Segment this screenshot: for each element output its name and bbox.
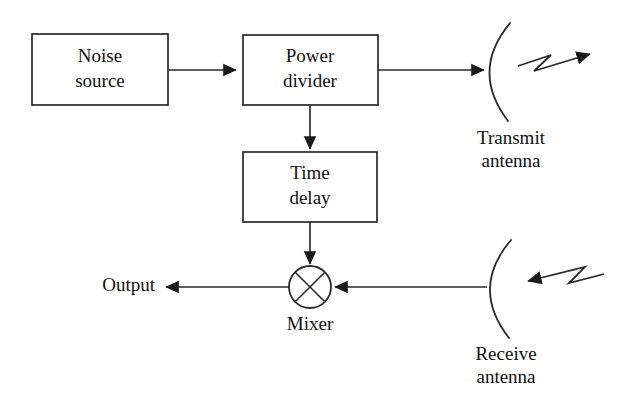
time-delay-label-line1: Time [290,162,329,183]
noise-source-label-line1: Noise [78,45,122,66]
power-divider-label-line1: Power [286,45,335,66]
output-label: Output [102,274,156,295]
receive-antenna[interactable]: Receive antenna [475,240,536,387]
block-diagram-canvas: Noise source Power divider Transmit ante… [0,0,625,404]
diagram-svg: Noise source Power divider Transmit ante… [0,0,625,404]
receive-antenna-dish-icon[interactable] [490,240,511,338]
transmit-antenna[interactable]: Transmit antenna [477,23,546,171]
receive-wave-bolt-icon [528,267,604,283]
transmit-wave-bolt-icon [518,54,590,71]
receive-wave-icon [528,267,604,283]
transmit-antenna-label-line2: antenna [481,150,541,171]
receive-antenna-label-line2: antenna [476,366,536,387]
power-divider-label-line2: divider [283,70,337,91]
block-power-divider[interactable]: Power divider [243,35,378,105]
receive-antenna-label-line1: Receive [475,343,536,364]
transmit-wave-icon [518,54,590,71]
mixer-label: Mixer [287,313,334,334]
time-delay-label-line2: delay [289,187,331,208]
transmit-antenna-label-line1: Transmit [477,127,546,148]
noise-source-label-line2: source [75,70,125,91]
block-noise-source[interactable]: Noise source [32,34,168,105]
transmit-antenna-dish-icon[interactable] [489,23,510,121]
block-time-delay[interactable]: Time delay [243,152,377,222]
mixer[interactable]: Mixer [287,266,334,334]
connector-mixer-to-output: Output [102,274,289,295]
